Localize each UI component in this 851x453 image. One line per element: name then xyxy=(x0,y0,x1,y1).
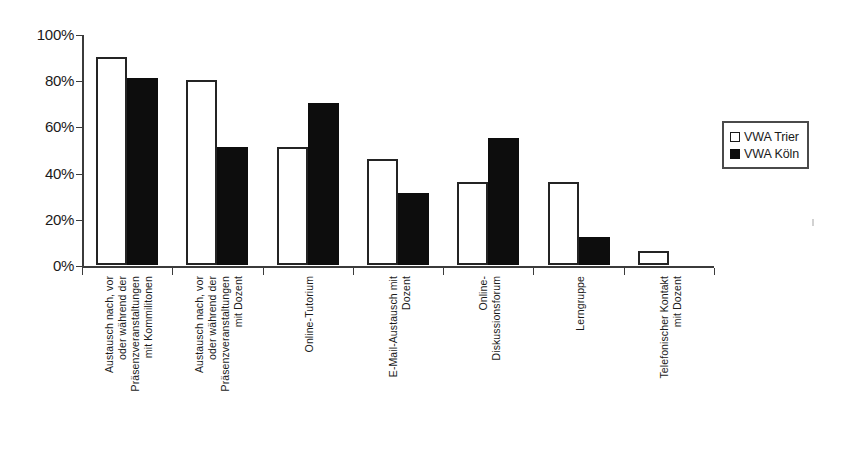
y-tick-label: 20% xyxy=(45,211,74,228)
plot-area: 0%20%40%60%80%100% xyxy=(82,35,714,267)
category-label-line: Diskussionsforum xyxy=(490,276,503,360)
category-label-line: E-Mail-Austausch mit xyxy=(387,276,400,377)
bar-group xyxy=(457,34,519,265)
bar-vwa-trier xyxy=(638,251,669,265)
bar-group xyxy=(277,34,339,265)
category-label-line: Austausch nach, vor xyxy=(193,276,206,391)
chart-legend: VWA Trier VWA Köln xyxy=(722,121,809,169)
bar-group xyxy=(548,34,610,265)
y-axis-line xyxy=(82,35,84,267)
x-axis-line xyxy=(82,266,714,268)
category-label-line: mit Kommilitonen xyxy=(142,276,155,391)
y-tick-label: 80% xyxy=(45,72,74,89)
y-tick-mark xyxy=(76,35,82,36)
x-tick-mark xyxy=(172,268,173,275)
category-label-line: Präsenzveranstaltungen xyxy=(129,276,142,391)
bar-vwa-koeln xyxy=(217,147,248,265)
bar-vwa-trier xyxy=(277,147,308,265)
legend-label: VWA Köln xyxy=(744,147,799,161)
category-label: Lerngruppe xyxy=(574,276,587,331)
bar-chart: 0%20%40%60%80%100% Austausch nach, vorod… xyxy=(0,0,851,453)
category-label-line: oder während der xyxy=(206,276,219,391)
y-tick-label: 0% xyxy=(53,257,74,274)
category-label-line: Dozent xyxy=(400,276,413,377)
bar-vwa-koeln xyxy=(579,237,610,265)
category-label-line: oder während der xyxy=(116,276,129,391)
y-tick-mark xyxy=(76,266,82,267)
legend-item-vwa-koeln: VWA Köln xyxy=(730,145,799,162)
bar-vwa-trier xyxy=(96,57,127,265)
category-label-line: Austausch nach, vor xyxy=(103,276,116,391)
x-tick-mark xyxy=(443,268,444,275)
black-square-icon xyxy=(730,149,740,159)
x-tick-mark xyxy=(624,268,625,275)
y-tick-label: 100% xyxy=(37,26,74,43)
y-tick-mark xyxy=(76,127,82,128)
category-label-line: Präsenzveranstaltungen xyxy=(219,276,232,391)
category-label: Online-Diskussionsforum xyxy=(477,276,503,360)
x-tick-mark xyxy=(82,268,83,275)
y-tick-mark xyxy=(76,174,82,175)
category-label-line: mit Dozent xyxy=(232,276,245,391)
scan-artifact xyxy=(812,219,814,226)
bar-vwa-trier xyxy=(548,182,579,265)
category-label: Online-Tutorium xyxy=(303,276,316,352)
category-label: Telefonischer Kontaktmit Dozent xyxy=(658,276,684,379)
x-tick-mark xyxy=(533,268,534,275)
bar-vwa-trier xyxy=(186,80,217,265)
x-tick-mark xyxy=(263,268,264,275)
x-tick-mark xyxy=(353,268,354,275)
bar-group xyxy=(367,34,429,265)
category-label: Austausch nach, voroder während derPräse… xyxy=(103,276,155,391)
bar-group xyxy=(96,34,158,265)
category-label-line: Online-Tutorium xyxy=(303,276,316,352)
category-label: Austausch nach, voroder während derPräse… xyxy=(193,276,245,391)
category-label-line: Lerngruppe xyxy=(574,276,587,331)
x-tick-mark xyxy=(714,268,715,275)
y-tick-label: 60% xyxy=(45,118,74,135)
bar-vwa-koeln xyxy=(308,103,339,265)
y-tick-label: 40% xyxy=(45,165,74,182)
bar-group xyxy=(638,34,700,265)
bar-vwa-trier xyxy=(457,182,488,265)
y-tick-mark xyxy=(76,81,82,82)
bar-vwa-koeln xyxy=(127,78,158,265)
legend-item-vwa-trier: VWA Trier xyxy=(730,128,799,145)
category-label-line: Telefonischer Kontakt xyxy=(658,276,671,379)
category-label: E-Mail-Austausch mitDozent xyxy=(387,276,413,377)
category-label-line: mit Dozent xyxy=(671,276,684,379)
bar-vwa-trier xyxy=(367,159,398,265)
bar-vwa-koeln xyxy=(488,138,519,265)
bar-group xyxy=(186,34,248,265)
legend-label: VWA Trier xyxy=(744,130,799,144)
category-label-line: Online- xyxy=(477,276,490,360)
y-tick-mark xyxy=(76,220,82,221)
bar-vwa-koeln xyxy=(398,193,429,265)
white-square-icon xyxy=(730,132,740,142)
